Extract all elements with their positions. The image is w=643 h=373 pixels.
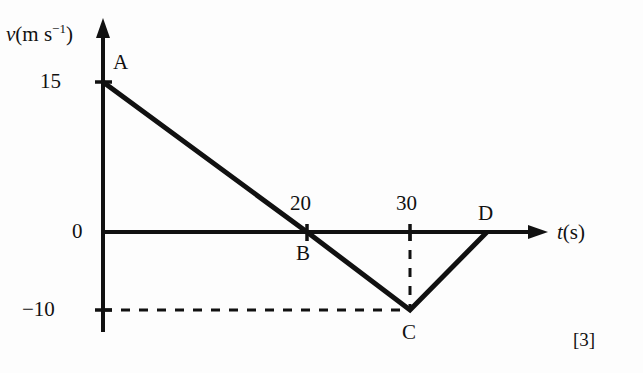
x-tick-label-20: 20 xyxy=(290,193,311,214)
x-axis-unit: (s) xyxy=(563,220,585,244)
point-label-d: D xyxy=(478,203,493,224)
y-axis-unit-open: (m s xyxy=(15,22,52,46)
point-label-a: A xyxy=(113,52,128,73)
y-axis-label: v(m s−1) xyxy=(6,24,73,45)
y-axis-unit-exponent: −1 xyxy=(52,21,66,36)
x-axis-arrowhead xyxy=(528,225,548,239)
point-label-b: B xyxy=(296,243,310,264)
y-tick-label-0: 0 xyxy=(72,221,83,242)
y-axis-unit-close: ) xyxy=(66,22,73,46)
x-axis-label: t(s) xyxy=(557,222,585,243)
y-axis-symbol: v xyxy=(6,22,15,46)
point-label-c: C xyxy=(402,322,416,343)
y-axis-arrowhead xyxy=(96,18,110,38)
y-tick-label-minus-10: −10 xyxy=(22,299,55,320)
marks-indicator: [3] xyxy=(573,330,595,349)
x-tick-label-30: 30 xyxy=(396,193,417,214)
velocity-time-graph xyxy=(0,0,643,373)
y-tick-label-15: 15 xyxy=(40,71,61,92)
